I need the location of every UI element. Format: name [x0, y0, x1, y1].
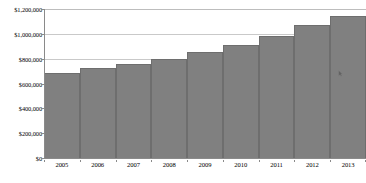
y-axis-tick-label: $400,000	[19, 105, 42, 112]
bar-2010	[223, 45, 259, 158]
x-axis-line	[44, 158, 366, 159]
x-axis-tick-label: 2005	[55, 161, 68, 169]
x-axis-tick-label: 2009	[199, 161, 212, 169]
x-axis-tick-mark	[259, 160, 260, 162]
y-axis-tick-label: $1,000,000	[14, 30, 42, 37]
x-axis-tick-label: 2013	[342, 161, 355, 169]
bar-2012	[294, 25, 330, 158]
bar-2009	[187, 52, 223, 158]
y-axis-tick-label: $200,000	[19, 130, 42, 137]
x-axis-tick-mark	[330, 160, 331, 162]
bar-2007	[116, 64, 152, 158]
bar-2008	[151, 59, 187, 158]
x-axis-tick-mark	[44, 160, 45, 162]
bar-2011	[259, 36, 295, 158]
y-axis-line	[44, 9, 45, 159]
x-axis-tick-label: 2008	[163, 161, 176, 169]
y-axis-tick-label: $1,200,000	[14, 6, 42, 13]
x-axis-tick-labels: 200520062007200820092010201120122013	[44, 160, 366, 180]
gridline	[44, 9, 366, 10]
y-axis-tick-label: $600,000	[19, 80, 42, 87]
x-axis-tick-mark	[294, 160, 295, 162]
bar-2005	[44, 73, 80, 158]
bar-2006	[80, 68, 116, 158]
x-axis-tick-label: 2010	[234, 161, 247, 169]
plot-area	[44, 9, 366, 158]
x-axis-tick-mark	[187, 160, 188, 162]
x-axis-tick-label: 2011	[270, 161, 283, 169]
x-axis-tick-mark	[151, 160, 152, 162]
mouse-cursor-artifact	[338, 70, 343, 77]
x-axis-tick-mark	[80, 160, 81, 162]
bar-chart: $0$200,000$400,000$600,000$800,000$1,000…	[0, 0, 366, 183]
bar-2013	[330, 16, 366, 158]
x-axis-tick-label: 2012	[306, 161, 319, 169]
x-axis-tick-label: 2007	[127, 161, 140, 169]
x-axis-tick-label: 2006	[91, 161, 104, 169]
x-axis-tick-mark	[223, 160, 224, 162]
y-axis-tick-label: $800,000	[19, 55, 42, 62]
x-axis-tick-mark	[116, 160, 117, 162]
y-axis-tick-labels: $0$200,000$400,000$600,000$800,000$1,000…	[0, 0, 42, 183]
